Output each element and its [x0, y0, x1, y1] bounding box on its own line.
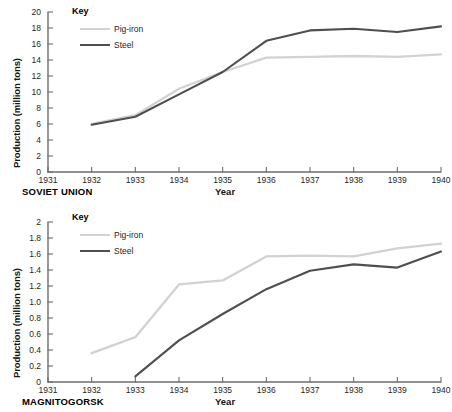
y-axis-tick-label: 6	[20, 119, 41, 129]
x-axis-tick-label: 1932	[72, 385, 112, 395]
plot-area-soviet-union	[0, 0, 452, 200]
y-axis-tick-label: 2	[20, 151, 41, 161]
y-axis-tick-label: 0.6	[20, 329, 41, 339]
y-axis-tick-label: 14	[20, 55, 41, 65]
x-axis-tick-label: 1932	[72, 175, 112, 185]
legend-swatch-steel	[80, 44, 110, 46]
plot-area-magnitogorsk	[0, 206, 452, 412]
x-axis-tick-label: 1940	[421, 385, 452, 395]
legend-item-pig-iron: Pig-iron	[80, 231, 143, 240]
y-axis-tick-label: 1.4	[20, 265, 41, 275]
legend-swatch-pig-iron	[80, 234, 110, 236]
chart-magnitogorsk: Production (million tons) Key Pig-iron S…	[0, 206, 452, 412]
chart-title-magnitogorsk: MAGNITOGORSK	[22, 396, 104, 407]
legend-title: Key	[72, 212, 89, 222]
legend-label-pig-iron: Pig-iron	[114, 231, 143, 240]
x-axis-tick-label: 1934	[159, 175, 199, 185]
x-axis-tick-label: 1939	[377, 385, 417, 395]
x-axis-tick-label: 1933	[115, 385, 155, 395]
x-axis-tick-label: 1937	[290, 175, 330, 185]
y-axis-tick-label: 1.2	[20, 281, 41, 291]
y-axis-tick-label: 8	[20, 103, 41, 113]
legend-item-pig-iron: Pig-iron	[80, 25, 143, 34]
x-axis-tick-label: 1931	[28, 385, 68, 395]
y-axis-tick-label: 0.4	[20, 345, 41, 355]
x-axis-tick-label: 1935	[203, 175, 243, 185]
x-axis-tick-label: 1937	[290, 385, 330, 395]
x-axis-tick-label: 1935	[203, 385, 243, 395]
x-axis-tick-label: 1934	[159, 385, 199, 395]
y-axis-tick-label: 4	[20, 135, 41, 145]
legend-item-steel: Steel	[80, 247, 133, 256]
y-axis-tick-label: 16	[20, 39, 41, 49]
x-axis-tick-label: 1938	[334, 385, 374, 395]
x-axis-tick-label: 1940	[421, 175, 452, 185]
y-axis-tick-label: 0.2	[20, 361, 41, 371]
legend-label-steel: Steel	[114, 41, 133, 50]
x-axis-tick-label: 1936	[246, 175, 286, 185]
legend-label-pig-iron: Pig-iron	[114, 25, 143, 34]
y-axis-tick-label: 20	[20, 7, 41, 17]
x-axis-tick-label: 1938	[334, 175, 374, 185]
y-axis-tick-label: 1.0	[20, 297, 41, 307]
y-axis-tick-label: 1.8	[20, 233, 41, 243]
legend-item-steel: Steel	[80, 41, 133, 50]
y-axis-tick-label: 2	[20, 217, 41, 227]
y-axis-tick-label: 1.6	[20, 249, 41, 259]
legend-swatch-steel	[80, 250, 110, 252]
y-axis-tick-label: 10	[20, 87, 41, 97]
legend-title: Key	[72, 6, 89, 16]
x-axis-tick-label: 1939	[377, 175, 417, 185]
chart-soviet-union: Production (million tons) Key Pig-iron S…	[0, 0, 452, 200]
dual-line-chart-figure: Production (million tons) Key Pig-iron S…	[0, 0, 452, 412]
legend-swatch-pig-iron	[80, 28, 110, 30]
y-axis-tick-label: 0.8	[20, 313, 41, 323]
chart-title-soviet-union: SOVIET UNION	[22, 186, 93, 197]
x-axis-label: Year	[215, 396, 235, 407]
x-axis-label: Year	[215, 186, 235, 197]
x-axis-tick-label: 1931	[28, 175, 68, 185]
legend-label-steel: Steel	[114, 247, 133, 256]
y-axis-tick-label: 12	[20, 71, 41, 81]
y-axis-tick-label: 18	[20, 23, 41, 33]
x-axis-tick-label: 1933	[115, 175, 155, 185]
x-axis-tick-label: 1936	[246, 385, 286, 395]
